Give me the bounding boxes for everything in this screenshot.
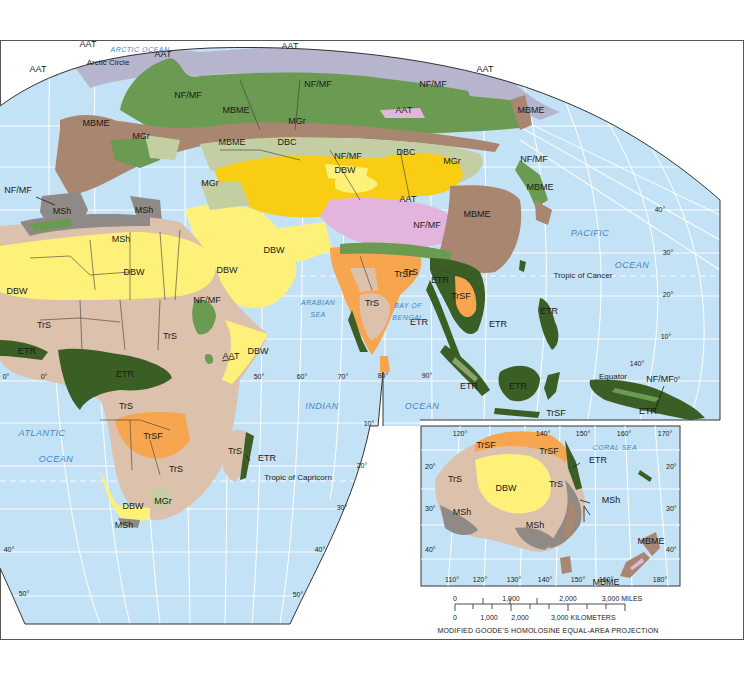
degree-label: 0° [41, 373, 48, 380]
biome-label: MBME [464, 209, 491, 219]
biome-label: DBW [123, 501, 145, 511]
biome-label: NF/MF [413, 220, 441, 230]
biome-label: DBW [264, 245, 286, 255]
biome-label: MSh [115, 520, 134, 530]
degree-label: 40° [315, 546, 326, 553]
svg-text:160°: 160° [617, 430, 632, 437]
biome-label: TrSF [143, 431, 163, 441]
ocean-label: ATLANTIC [18, 428, 66, 438]
svg-text:20°: 20° [666, 463, 677, 470]
svg-text:130°: 130° [507, 576, 522, 583]
biome-label: TrSF [451, 291, 471, 301]
biome-label: AAT [477, 64, 494, 74]
ocean-label: BENGAL [392, 314, 423, 321]
svg-text:0: 0 [453, 614, 457, 621]
biome-label: DBW [124, 267, 146, 277]
ocean-label: OCEAN [39, 454, 74, 464]
biome-label: MSh [526, 520, 545, 530]
biome-label: NF/MF [646, 374, 674, 384]
degree-label: 140° [630, 360, 645, 367]
ocean-label: ARCTIC OCEAN [110, 46, 170, 53]
biome-label: TrSF [394, 269, 414, 279]
biome-label: MBME [223, 105, 250, 115]
svg-text:170°: 170° [658, 430, 673, 437]
degree-label: 50° [293, 591, 304, 598]
svg-text:0: 0 [453, 595, 457, 602]
ocean-label: ARABIAN [300, 299, 336, 306]
biome-label: NF/MF [4, 185, 32, 195]
biome-label: MGr [132, 131, 150, 141]
degree-label: 40° [4, 546, 15, 553]
svg-text:2,000: 2,000 [511, 614, 529, 621]
biome-label: MGr [288, 116, 306, 126]
svg-text:30°: 30° [666, 505, 677, 512]
biome-label: TrS [119, 401, 133, 411]
biome-label: AAT [30, 64, 47, 74]
svg-text:180°: 180° [653, 576, 668, 583]
projection-caption: MODIFIED GOODE'S HOMOLOSINE EQUAL-AREA P… [437, 627, 658, 635]
svg-text:150°: 150° [576, 430, 591, 437]
latitude-line-label: Tropic of Capricorn [264, 473, 332, 482]
biome-label: TrS [365, 298, 379, 308]
degree-label: 50° [254, 373, 265, 380]
biome-label: TrS [549, 479, 563, 489]
biome-label: MBME [527, 182, 554, 192]
biome-label: AAT [80, 40, 97, 49]
degree-label: 20° [663, 291, 674, 298]
degree-label: 70° [338, 373, 349, 380]
svg-text:140°: 140° [538, 576, 553, 583]
degree-label: 90° [422, 372, 433, 379]
degree-label: 10° [364, 420, 375, 427]
ocean-label: SEA [310, 311, 326, 318]
ocean-label: OCEAN [615, 260, 650, 270]
svg-text:1,000: 1,000 [502, 595, 520, 602]
biome-label: DBW [496, 483, 518, 493]
biome-label: ETR [18, 346, 37, 356]
biome-label: DBW [248, 346, 270, 356]
biome-map: AATAATAATAATAATAATAATAATNF/MFNF/MFNF/MFN… [0, 40, 756, 640]
ocean-label: BAY OF [394, 302, 422, 309]
degree-label: 20° [357, 462, 368, 469]
biome-label: ETR [540, 306, 559, 316]
svg-text:40°: 40° [425, 546, 436, 553]
latitude-line-label: Tropic of Cancer [554, 271, 613, 280]
biome-label: MSh [112, 234, 131, 244]
degree-label: 30° [663, 249, 674, 256]
latitude-line-label: Equator [599, 372, 627, 381]
biome-label: AAT [282, 41, 299, 51]
svg-text:110°: 110° [445, 576, 459, 583]
svg-text:3,000 MILES: 3,000 MILES [602, 595, 643, 602]
svg-text:120°: 120° [453, 430, 468, 437]
svg-text:2,000: 2,000 [559, 595, 577, 602]
biome-label: TrS [448, 474, 462, 484]
biome-label: MSh [602, 495, 621, 505]
degree-label: 0° [674, 376, 681, 383]
svg-text:160°: 160° [599, 576, 614, 583]
biome-label: DBW [7, 286, 29, 296]
biome-label: AAT [400, 194, 417, 204]
svg-text:3,000 KILOMETERS: 3,000 KILOMETERS [551, 614, 616, 621]
biome-label: MGr [443, 156, 461, 166]
biome-label: DBW [335, 165, 357, 175]
svg-text:20°: 20° [425, 463, 436, 470]
svg-text:40°: 40° [666, 546, 677, 553]
degree-label: 80° [378, 372, 389, 379]
biome-label: ETR [431, 275, 450, 285]
ocean-label: CORAL SEA [593, 444, 637, 451]
svg-text:150°: 150° [571, 576, 586, 583]
biome-label: ETR [258, 453, 277, 463]
ocean-label: INDIAN [305, 401, 339, 411]
biome-label: TrS [163, 331, 177, 341]
degree-label: 40° [655, 206, 666, 213]
biome-label: MSh [453, 507, 472, 517]
degree-label: 50° [19, 590, 30, 597]
biome-label: MBME [83, 118, 110, 128]
biome-label: DBC [277, 137, 297, 147]
svg-text:140°: 140° [536, 430, 551, 437]
biome-label: ETR [116, 369, 135, 379]
biome-label: TrSF [546, 408, 566, 418]
biome-label: MBME [518, 105, 545, 115]
biome-label: TrS [37, 320, 51, 330]
biome-label: MGr [154, 496, 172, 506]
biome-label: ETR [639, 406, 658, 416]
